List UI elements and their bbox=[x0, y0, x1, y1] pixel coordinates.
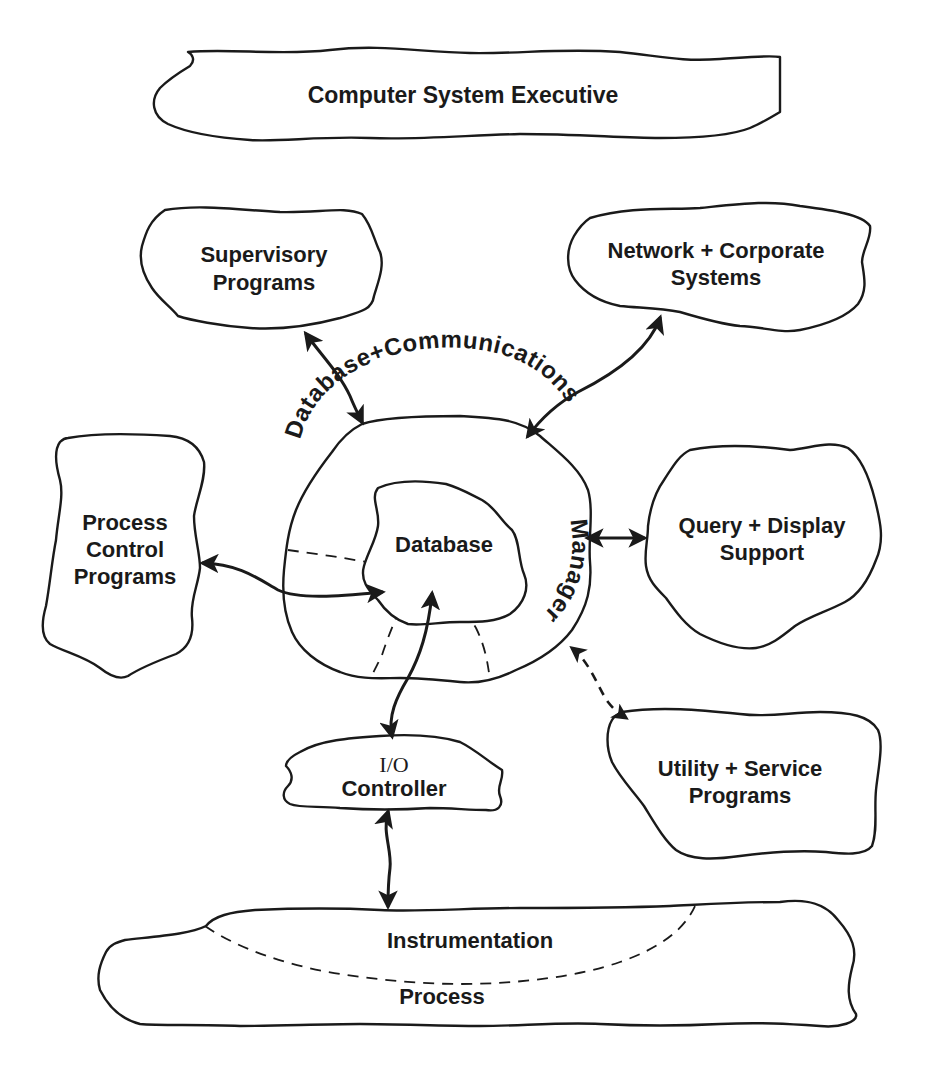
process-label: Process bbox=[399, 984, 485, 1009]
io-controller-label-line2: Controller bbox=[341, 776, 447, 801]
network-label-line2: Systems bbox=[671, 265, 762, 290]
node-process-control-programs: Process Control Programs bbox=[43, 434, 205, 678]
edge-io-to-process bbox=[386, 812, 390, 906]
instrumentation-label: Instrumentation bbox=[387, 928, 553, 953]
node-query-display-support: Query + Display Support bbox=[645, 445, 881, 649]
executive-label: Computer System Executive bbox=[308, 82, 619, 108]
query-label-line2: Support bbox=[720, 540, 805, 565]
node-computer-system-executive: Computer System Executive bbox=[154, 48, 780, 141]
query-label-line1: Query + Display bbox=[679, 513, 847, 538]
supervisory-label-line2: Programs bbox=[213, 270, 316, 295]
network-label-line1: Network + Corporate bbox=[608, 238, 825, 263]
process-control-label-line1: Process bbox=[82, 510, 168, 535]
io-controller-label-line1: I/O bbox=[379, 752, 408, 777]
utility-label-line2: Programs bbox=[689, 783, 792, 808]
supervisory-blob-shape bbox=[141, 207, 382, 328]
system-architecture-diagram: Computer System Executive Supervisory Pr… bbox=[0, 0, 928, 1072]
database-label: Database bbox=[395, 532, 493, 557]
node-network-corporate-systems: Network + Corporate Systems bbox=[568, 203, 870, 331]
process-control-label-line2: Control bbox=[86, 537, 164, 562]
node-instrumentation: Instrumentation bbox=[387, 928, 553, 953]
node-io-controller: I/O Controller bbox=[284, 735, 503, 810]
node-supervisory-programs: Supervisory Programs bbox=[141, 207, 382, 328]
process-control-label-line3: Programs bbox=[74, 564, 177, 589]
node-utility-service-programs: Utility + Service Programs bbox=[608, 709, 881, 859]
supervisory-label-line1: Supervisory bbox=[200, 242, 328, 267]
utility-label-line1: Utility + Service bbox=[658, 756, 822, 781]
edge-dbcm-to-utility bbox=[572, 648, 626, 718]
